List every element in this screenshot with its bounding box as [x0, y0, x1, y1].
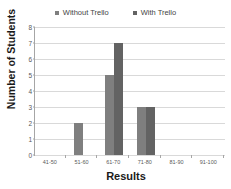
bars-layer	[35, 27, 225, 155]
y-axis-tick-label: 2	[28, 120, 32, 127]
bar-group	[67, 27, 99, 155]
bar-chart: Without Trello With Trello Number of Stu…	[0, 0, 231, 189]
x-axis-tick-mark	[223, 155, 224, 158]
x-axis-tick-labels: 41-5051-6061-7071-8081-9091-100	[34, 159, 224, 169]
x-axis-title: Results	[26, 170, 226, 182]
y-axis-tick-label: 1	[28, 136, 32, 143]
y-axis-tick-label: 6	[28, 56, 32, 63]
bar-group	[35, 27, 67, 155]
bar-group	[162, 27, 194, 155]
bar	[114, 43, 123, 155]
y-axis-tick-label: 5	[28, 72, 32, 79]
x-axis-tick-label: 51-60	[66, 159, 98, 169]
legend-swatch-icon-without-trello	[55, 11, 59, 15]
bar	[105, 75, 114, 155]
bar	[137, 107, 146, 155]
y-axis-tick-label: 4	[28, 88, 32, 95]
legend-swatch-icon-with-trello	[133, 11, 137, 15]
x-axis-tick-label: 81-90	[161, 159, 193, 169]
y-axis-title: Number of Students	[5, 0, 17, 119]
bar	[74, 123, 83, 155]
legend-label-without-trello: Without Trello	[63, 9, 109, 17]
legend-label-with-trello: With Trello	[141, 9, 176, 17]
bar-group	[98, 27, 130, 155]
x-axis-tick-label: 71-80	[129, 159, 161, 169]
y-axis-tick-label: 8	[28, 24, 32, 31]
bar-group	[130, 27, 162, 155]
x-axis-tick-label: 91-100	[192, 159, 224, 169]
x-axis-tick-label: 41-50	[34, 159, 66, 169]
y-axis-tick-label: 7	[28, 40, 32, 47]
legend-entry-without-trello: Without Trello	[55, 9, 109, 17]
legend-entry-with-trello: With Trello	[133, 9, 176, 17]
bar-group	[193, 27, 225, 155]
chart-legend: Without Trello With Trello	[0, 6, 231, 20]
x-axis-tick-label: 61-70	[97, 159, 129, 169]
plot-area: 012345678	[34, 27, 225, 156]
y-axis-tick-label: 3	[28, 104, 32, 111]
y-axis-tick-label: 0	[28, 152, 32, 159]
bar	[146, 107, 155, 155]
